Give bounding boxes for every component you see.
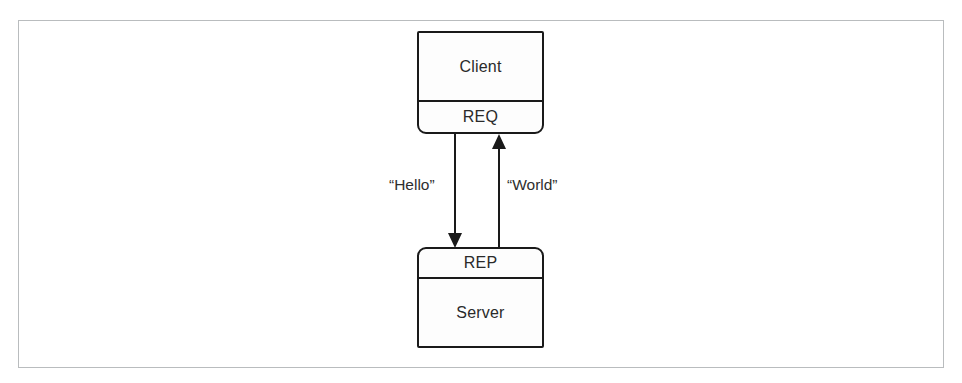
node-client-socket-label: REQ — [419, 102, 542, 132]
figure-root: Client REQ REP Server “Hello” “World” — [0, 0, 962, 383]
diagram-canvas: Client REQ REP Server “Hello” “World” — [0, 0, 962, 383]
reply-arrow-head-icon — [492, 134, 506, 149]
request-arrow-head-icon — [448, 233, 462, 248]
request-arrow-shaft — [454, 134, 456, 236]
node-server: REP Server — [417, 247, 544, 348]
request-arrow-label: “Hello” — [389, 176, 435, 194]
node-client: Client REQ — [417, 31, 544, 134]
node-server-socket-label: REP — [419, 249, 542, 279]
reply-arrow-label: “World” — [507, 176, 558, 194]
reply-arrow-shaft — [498, 147, 500, 248]
node-client-title: Client — [419, 33, 542, 102]
node-server-title: Server — [419, 279, 542, 346]
